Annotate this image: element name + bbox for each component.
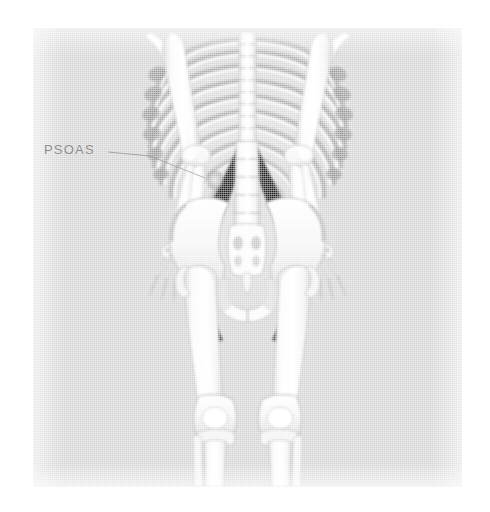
patella-right bbox=[267, 407, 293, 429]
tibia-fibula-left bbox=[193, 436, 227, 488]
patella-left bbox=[202, 407, 228, 429]
figure-root: PSOAS bbox=[0, 0, 490, 512]
skeleton-scan-image bbox=[33, 28, 462, 487]
tibia-fibula-right bbox=[268, 436, 302, 488]
elbow-left bbox=[181, 145, 211, 167]
thoracic-spine bbox=[239, 32, 256, 142]
lumbar-spine bbox=[233, 141, 261, 230]
elbow-right bbox=[284, 145, 314, 167]
psoas-annotation: PSOAS bbox=[44, 140, 95, 158]
psoas-label: PSOAS bbox=[44, 142, 95, 157]
bone-scan-panel bbox=[33, 28, 462, 487]
psoas-hotspot bbox=[206, 170, 224, 190]
